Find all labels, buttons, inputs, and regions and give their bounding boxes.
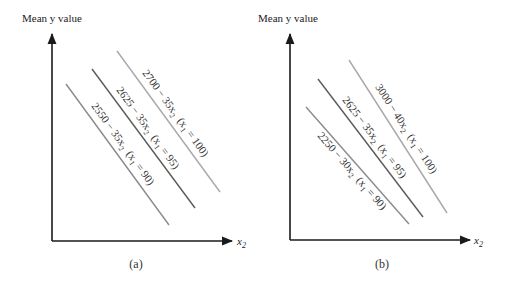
line-x1-90	[66, 84, 169, 225]
panel-b: Mean y value x2 2250 − 30x2(x1 = 90) 262…	[258, 12, 483, 271]
panel-caption: (b)	[375, 257, 389, 271]
line-x1-95	[92, 69, 195, 208]
x-axis-label: x2	[473, 234, 483, 249]
y-axis-label: Mean y value	[22, 12, 82, 24]
line-label-x1-90: 2550 − 35x2(x1 = 90)	[87, 100, 157, 189]
y-axis-label: Mean y value	[258, 12, 318, 24]
line-label-x1-90: 2250 − 30x2(x1 = 90)	[313, 129, 389, 214]
interaction-diagram: Mean y value x2 2550 − 35x2(x1 = 90) 262…	[0, 0, 509, 286]
panel-caption: (a)	[129, 257, 142, 271]
x-axis-label: x2	[236, 235, 246, 250]
line-x1-100	[117, 51, 220, 192]
panel-a: Mean y value x2 2550 − 35x2(x1 = 90) 262…	[22, 12, 246, 271]
